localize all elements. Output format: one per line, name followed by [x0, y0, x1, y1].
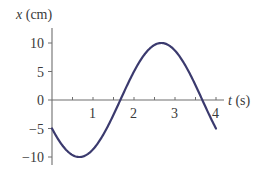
axes — [52, 28, 224, 165]
y-tick-label: 10 — [30, 36, 44, 51]
y-tick-label: −5 — [29, 122, 44, 137]
x-axis-label: t (s) — [228, 93, 251, 109]
chart: 12341050−5−10 x (cm) t (s) — [0, 0, 275, 169]
y-axis-label: x (cm) — [15, 7, 52, 23]
y-tick-label: 0 — [37, 93, 44, 108]
x-tick-label: 3 — [171, 106, 178, 121]
y-tick-label: −10 — [22, 150, 44, 165]
x-tick-label: 4 — [212, 106, 219, 121]
x-tick-label: 2 — [130, 106, 137, 121]
x-tick-label: 1 — [89, 106, 96, 121]
y-tick-label: 5 — [37, 65, 44, 80]
